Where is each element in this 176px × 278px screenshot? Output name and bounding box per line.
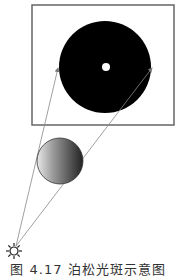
poisson-bright-spot bbox=[102, 63, 110, 71]
figure-caption: 图 4.17 泊松光斑示意图 bbox=[0, 259, 176, 278]
obstacle-sphere bbox=[37, 138, 83, 184]
light-source-icon bbox=[6, 243, 22, 259]
